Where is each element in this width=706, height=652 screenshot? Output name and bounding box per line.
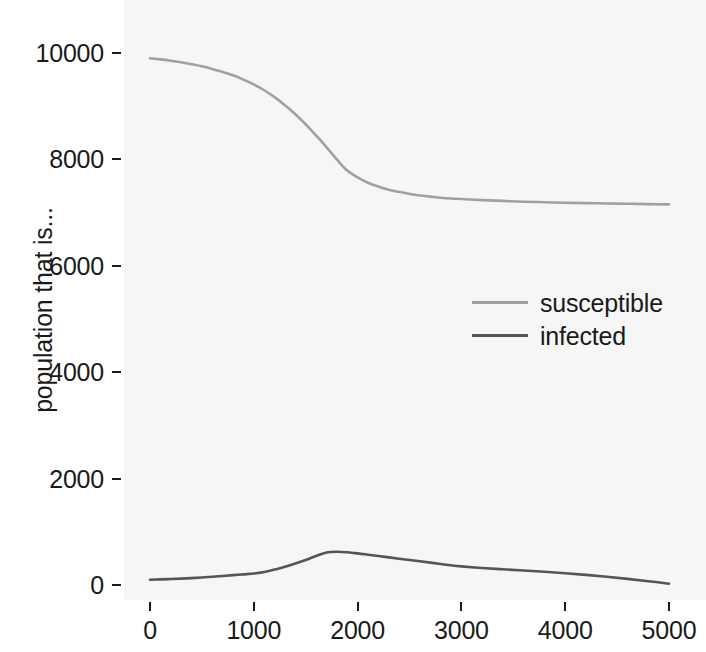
- x-tick-mark: [149, 602, 151, 611]
- x-tick-label: 1000: [194, 615, 314, 645]
- y-tick-mark: [112, 371, 121, 373]
- y-tick-mark: [112, 158, 121, 160]
- legend-item-susceptible: susceptible: [472, 288, 706, 318]
- series-line-infected: [150, 552, 669, 584]
- legend-key-line-icon: [472, 334, 528, 337]
- x-tick-label: 3000: [401, 615, 521, 645]
- y-tick-mark: [112, 584, 121, 586]
- x-tick-label: 0: [90, 615, 210, 645]
- x-tick-mark: [253, 602, 255, 611]
- legend-label: susceptible: [540, 288, 663, 318]
- y-tick-mark: [112, 478, 121, 480]
- x-tick-label: 4000: [505, 615, 625, 645]
- y-tick-mark: [112, 265, 121, 267]
- x-tick-mark: [357, 602, 359, 611]
- x-tick-label: 5000: [609, 615, 706, 645]
- legend-key-line-icon: [472, 301, 528, 304]
- plot-panel: susceptibleinfected: [124, 0, 706, 600]
- x-tick-mark: [668, 602, 670, 611]
- legend: susceptibleinfected: [472, 288, 706, 354]
- series-line-susceptible: [150, 58, 669, 204]
- x-tick-mark: [564, 602, 566, 611]
- x-tick-label: 2000: [298, 615, 418, 645]
- y-tick-mark: [112, 52, 121, 54]
- x-tick-mark: [460, 602, 462, 611]
- line-chart: population that is... 020004000600080001…: [0, 0, 706, 652]
- legend-item-infected: infected: [472, 321, 706, 351]
- legend-label: infected: [540, 321, 626, 351]
